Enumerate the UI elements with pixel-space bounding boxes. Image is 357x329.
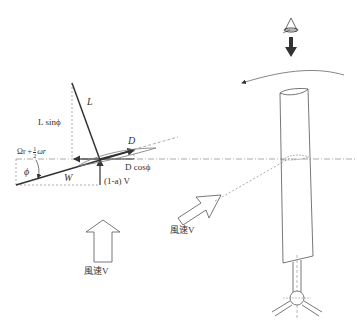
wind-arrow-diagonal [178,158,290,225]
drag-label: D [128,136,135,146]
drag-horizontal-label: D cosϕ [125,163,150,172]
angle-arc [36,160,39,178]
wind-speed-label-bottom: 風速V [84,267,109,276]
viewpoint-eye-icon [283,18,298,33]
turbine-blade [272,88,322,320]
rotational-speed-label: Ωr +12ωr [17,146,46,159]
relative-wind-label: W [64,173,72,183]
velocity-triangle [16,83,357,185]
fraction-numerator: 1 [33,146,36,153]
lift-vertical-label: L sinϕ [38,118,61,127]
lift-vector [72,83,100,160]
wind-turbine-blade-diagram: L L sinϕ D D cosϕ W ϕ (1-a) V Ωr +12ωr 風… [0,0,357,329]
lift-label: L [87,97,93,107]
rotational-speed-suffix: ωr [37,147,46,156]
fraction-denominator: 2 [33,153,36,159]
axial-velocity-label: (1-a) V [104,177,130,186]
view-direction-arrow [285,37,297,57]
wind-arrow-up [86,220,120,262]
rotation-direction-arc [242,70,344,83]
diagram-canvas [0,0,357,329]
angle-label: ϕ [24,167,29,177]
wind-speed-label-right: 風速V [170,226,195,235]
rotational-speed-prefix: Ωr + [17,147,32,156]
half-fraction: 12 [33,146,36,159]
